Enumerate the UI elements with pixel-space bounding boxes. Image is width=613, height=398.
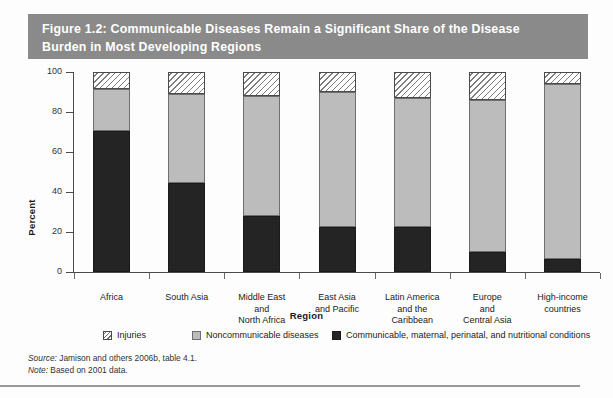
y-tick-label: 20 [36, 226, 62, 236]
legend-label: Injuries [117, 330, 146, 340]
bar-segment-gray[interactable] [469, 100, 506, 252]
x-tick [149, 273, 150, 279]
bar-segment-gray[interactable] [394, 98, 431, 227]
x-tick [600, 273, 601, 279]
legend-item[interactable]: Noncommunicable diseases [192, 330, 319, 340]
bar-segment-dark[interactable] [319, 227, 356, 272]
legend-label: Communicable, maternal, perinatal, and n… [346, 330, 590, 340]
legend-item[interactable]: Communicable, maternal, perinatal, and n… [332, 330, 590, 340]
note-line: Note: Based on 2001 data. [28, 364, 548, 376]
stacked-bar-group [74, 72, 600, 272]
stacked-bar[interactable] [544, 72, 581, 272]
bar-segment-dark[interactable] [168, 183, 205, 272]
x-tick [299, 273, 300, 279]
y-axis-title: Percent [26, 183, 37, 253]
y-tick [66, 152, 74, 153]
bar-segment-dark[interactable] [469, 252, 506, 272]
figure-page: Figure 1.2: Communicable Diseases Remain… [0, 0, 613, 398]
chart-legend: InjuriesNoncommunicable diseasesCommunic… [0, 330, 613, 348]
x-tick [450, 273, 451, 279]
y-tick [66, 72, 74, 73]
stacked-bar[interactable] [93, 72, 130, 272]
bar-segment-hatched[interactable] [93, 72, 130, 89]
x-tick [74, 273, 75, 279]
stacked-bar[interactable] [394, 72, 431, 272]
y-tick [66, 192, 74, 193]
x-tick [224, 273, 225, 279]
y-tick-label: 80 [36, 106, 62, 116]
source-label: Source: [28, 353, 57, 363]
bar-segment-gray[interactable] [168, 94, 205, 183]
legend-swatch-hatch-icon [103, 331, 112, 340]
legend-item[interactable]: Injuries [103, 330, 146, 340]
x-axis-title: Region [0, 310, 613, 321]
x-tick-label-line: High-income [514, 292, 610, 304]
figure-title-line-2: Burden in Most Developing Regions [42, 38, 574, 56]
bar-segment-hatched[interactable] [243, 72, 280, 96]
bar-segment-dark[interactable] [394, 227, 431, 272]
x-tick [375, 273, 376, 279]
bar-segment-gray[interactable] [544, 84, 581, 259]
bar-segment-dark[interactable] [243, 216, 280, 272]
source-line: Source: Jamison and others 2006b, table … [28, 352, 548, 364]
figure-title-line-1: Figure 1.2: Communicable Diseases Remain… [42, 20, 574, 38]
y-tick-label: 40 [36, 186, 62, 196]
source-text: Jamison and others 2006b, table 4.1. [59, 353, 197, 363]
bar-segment-hatched[interactable] [469, 72, 506, 100]
stacked-bar[interactable] [243, 72, 280, 272]
bar-segment-dark[interactable] [93, 131, 130, 272]
y-tick-label: 0 [36, 266, 62, 276]
chart-plot-area: Percent 020406080100 [0, 62, 613, 292]
bar-segment-hatched[interactable] [319, 72, 356, 92]
figure-notes: Source: Jamison and others 2006b, table … [28, 352, 548, 376]
bar-segment-hatched[interactable] [168, 72, 205, 94]
stacked-bar[interactable] [469, 72, 506, 272]
bar-segment-dark[interactable] [544, 259, 581, 272]
note-label: Note: [28, 365, 48, 375]
y-tick-label: 100 [36, 66, 62, 76]
y-tick [66, 232, 74, 233]
y-tick-label: 60 [36, 146, 62, 156]
legend-swatch-gray-icon [192, 331, 201, 340]
y-tick [66, 112, 74, 113]
bar-segment-hatched[interactable] [394, 72, 431, 98]
bar-segment-gray[interactable] [319, 92, 356, 227]
stacked-bar[interactable] [319, 72, 356, 272]
bar-segment-gray[interactable] [93, 89, 130, 131]
note-text: Based on 2001 data. [50, 365, 127, 375]
legend-label: Noncommunicable diseases [206, 330, 319, 340]
x-tick [525, 273, 526, 279]
stacked-bar[interactable] [168, 72, 205, 272]
bar-segment-gray[interactable] [243, 96, 280, 216]
y-tick [66, 272, 74, 273]
legend-swatch-dark-icon [332, 331, 341, 340]
x-axis-line [73, 272, 600, 273]
figure-title-banner: Figure 1.2: Communicable Diseases Remain… [28, 14, 588, 59]
bottom-divider [0, 385, 580, 387]
bar-segment-hatched[interactable] [544, 72, 581, 84]
